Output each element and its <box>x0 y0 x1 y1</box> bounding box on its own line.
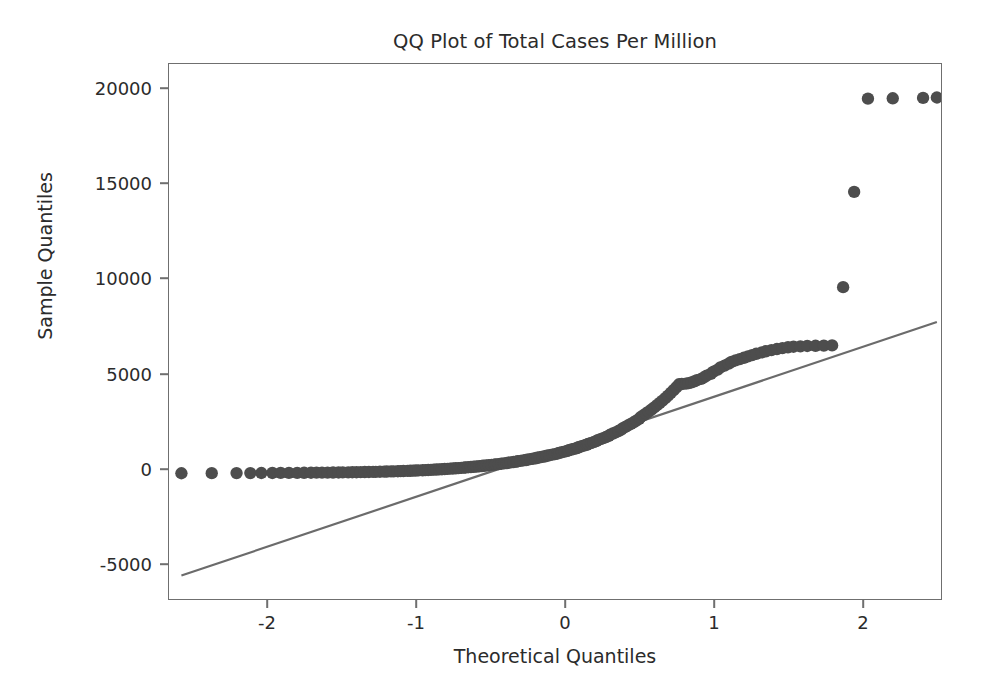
x-tick-label--2: -2 <box>258 612 276 633</box>
data-point <box>255 467 267 479</box>
data-point <box>862 92 874 104</box>
data-point <box>244 467 256 479</box>
y-tick-mark--5000 <box>160 563 168 565</box>
data-point <box>848 186 860 198</box>
data-point <box>887 92 899 104</box>
x-tick-mark-1 <box>713 600 715 608</box>
qq-plot-figure: QQ Plot of Total Cases Per Million Sampl… <box>0 0 991 694</box>
y-tick-label-20000: 20000 <box>95 78 152 99</box>
y-tick-mark-5000 <box>160 373 168 375</box>
y-tick-mark-20000 <box>160 87 168 89</box>
plot-canvas <box>169 64 941 599</box>
data-point <box>837 281 849 293</box>
y-tick-label--5000: -5000 <box>100 554 152 575</box>
y-tick-label-15000: 15000 <box>95 173 152 194</box>
y-tick-label-0: 0 <box>141 459 152 480</box>
y-tick-label-10000: 10000 <box>95 268 152 289</box>
x-tick-label-1: 1 <box>708 612 719 633</box>
x-tick-mark--1 <box>415 600 417 608</box>
data-point <box>175 467 187 479</box>
data-point <box>230 467 242 479</box>
y-axis-tick-labels: 20000 15000 10000 5000 0 -5000 <box>0 0 152 694</box>
x-tick-label-0: 0 <box>559 612 570 633</box>
y-tick-label-5000: 5000 <box>106 364 152 385</box>
x-tick-label-2: 2 <box>857 612 868 633</box>
x-tick-mark--2 <box>266 600 268 608</box>
data-point <box>931 91 941 103</box>
x-tick-mark-0 <box>564 600 566 608</box>
data-point <box>917 92 929 104</box>
x-tick-label--1: -1 <box>407 612 425 633</box>
scatter-points-group <box>175 91 941 479</box>
data-point <box>826 339 838 351</box>
x-tick-mark-2 <box>862 600 864 608</box>
y-tick-mark-10000 <box>160 277 168 279</box>
plot-area <box>168 63 942 600</box>
chart-title: QQ Plot of Total Cases Per Million <box>168 30 942 53</box>
y-tick-mark-0 <box>160 468 168 470</box>
y-tick-mark-15000 <box>160 182 168 184</box>
data-point <box>206 467 218 479</box>
x-axis-label: Theoretical Quantiles <box>168 645 942 667</box>
